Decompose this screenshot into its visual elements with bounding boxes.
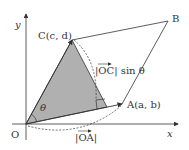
shaded-triangle [26, 40, 107, 124]
parallelogram-diagram: y x O C(c, d) B A(a, b) θ |OC| sin θ |OA… [0, 0, 189, 150]
point-c-label: C(c, d) [38, 30, 72, 41]
origin-label: O [11, 129, 19, 140]
point-b-label: B [172, 13, 179, 24]
y-axis-label: y [14, 19, 21, 30]
x-axis-label: x [167, 128, 173, 139]
oa-length-label: |OA| [75, 132, 97, 144]
side-cb [72, 21, 168, 40]
theta-label: θ [40, 102, 46, 113]
side-ab [122, 21, 168, 104]
oa-text: OA [78, 132, 94, 143]
oc-sin-label: |OC| sin θ [95, 65, 145, 77]
point-a-label: A(a, b) [126, 99, 161, 110]
